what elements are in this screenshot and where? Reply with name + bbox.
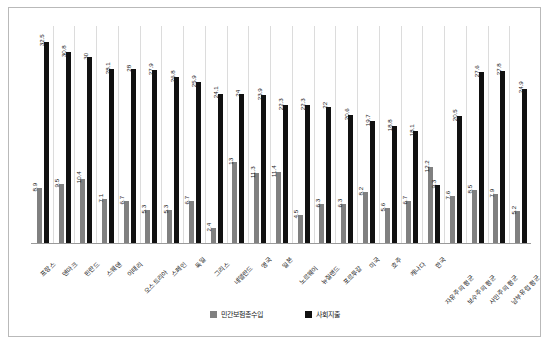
- bar-private[interactable]: 13: [232, 162, 237, 243]
- bar-private[interactable]: 5.6: [385, 208, 390, 243]
- bar-value-wrap: 6.7: [119, 196, 126, 205]
- bar-social[interactable]: 24.1: [218, 94, 223, 243]
- bar-private[interactable]: 7.1: [102, 199, 107, 243]
- bar-private[interactable]: 6.7: [124, 201, 129, 243]
- bar-group: 6.728: [123, 26, 136, 243]
- bar-group: 8.527.6: [471, 26, 484, 243]
- bar-private[interactable]: 8.5: [472, 190, 477, 243]
- x-axis-label: 호주: [390, 256, 403, 269]
- bar-value-label: 23.9: [256, 88, 263, 100]
- bar-value-wrap: 11.3: [249, 166, 256, 178]
- chart-frame: 8.932.59.530.810.4307.128.16.7285.327.95…: [8, 7, 541, 337]
- bar-social[interactable]: 28: [131, 69, 136, 243]
- grid-line: [270, 26, 271, 244]
- bar-private[interactable]: 6.3: [319, 204, 324, 243]
- bar-social[interactable]: 20.6: [348, 115, 353, 243]
- bar-value-wrap: 28: [126, 65, 133, 72]
- bar-social[interactable]: 30: [87, 57, 92, 243]
- bar-private[interactable]: 10.4: [80, 179, 85, 243]
- bar-value-label: 5.3: [163, 205, 170, 214]
- bar-value-label: 22: [322, 102, 329, 109]
- bar-social[interactable]: 32.5: [44, 42, 49, 244]
- bar-group: 7.620.5: [449, 26, 462, 243]
- bar-value-wrap: 5.6: [380, 203, 387, 212]
- bar-social[interactable]: 24: [239, 94, 244, 243]
- grid-line: [401, 26, 402, 244]
- bar-group: 6.322: [318, 26, 331, 243]
- bar-value-wrap: 24.9: [517, 82, 524, 94]
- bar-private[interactable]: 5.3: [167, 210, 172, 243]
- bar-value-wrap: 24.1: [213, 87, 220, 99]
- bar-value-label: 30: [83, 53, 90, 60]
- bar-group: 6.725.9: [188, 26, 201, 243]
- grid-line: [183, 26, 184, 244]
- bar-private[interactable]: 7.6: [450, 196, 455, 243]
- bar-group: 6.320.6: [340, 26, 353, 243]
- bar-private[interactable]: 5.2: [515, 211, 520, 243]
- bar-value-wrap: 8.9: [32, 183, 39, 192]
- bar-value-wrap: 6.3: [315, 199, 322, 208]
- bar-value-label: 28: [126, 65, 133, 72]
- bar-value-wrap: 18.1: [409, 124, 416, 136]
- grid-line: [96, 26, 97, 244]
- bar-social[interactable]: 18.1: [413, 131, 418, 243]
- bar-private[interactable]: 6.7: [406, 201, 411, 243]
- bar-private[interactable]: 5.3: [145, 210, 150, 243]
- legend-item-private[interactable]: 민간보험총수입: [210, 311, 263, 318]
- bar-private[interactable]: 8.9: [37, 188, 42, 243]
- bar-social[interactable]: 22.3: [283, 105, 288, 243]
- bar-private[interactable]: 11.3: [254, 173, 259, 243]
- bar-social[interactable]: 9.3: [435, 185, 440, 243]
- bar-social[interactable]: 27.8: [500, 71, 505, 243]
- x-axis-label: 스웨덴: [105, 261, 122, 278]
- bar-value-wrap: 20.6: [343, 108, 350, 120]
- bar-group: 1324: [231, 26, 244, 243]
- bar-social[interactable]: 20.5: [457, 116, 462, 243]
- bar-private[interactable]: 2.4: [211, 228, 216, 243]
- bar-private[interactable]: 6.3: [341, 204, 346, 243]
- bar-social[interactable]: 24.9: [522, 89, 527, 243]
- bar-value-wrap: 11.4: [271, 166, 278, 178]
- bar-social[interactable]: 22.3: [305, 105, 310, 243]
- bar-value-label: 12.2: [423, 160, 430, 172]
- bar-social[interactable]: 18.8: [392, 126, 397, 243]
- bar-private[interactable]: 6.7: [189, 201, 194, 243]
- bar-social[interactable]: 26.8: [174, 77, 179, 243]
- bar-social[interactable]: 23.9: [261, 95, 266, 243]
- bar-social[interactable]: 19.7: [370, 121, 375, 243]
- bar-social[interactable]: 27.9: [152, 70, 157, 243]
- bar-social[interactable]: 28.1: [109, 69, 114, 243]
- bar-private[interactable]: 4.5: [298, 215, 303, 243]
- bar-social[interactable]: 22: [326, 107, 331, 243]
- bar-social[interactable]: 30.8: [66, 52, 71, 243]
- bar-value-label: 6.7: [184, 196, 191, 205]
- bar-value-wrap: 26.8: [170, 70, 177, 82]
- bar-value-label: 27.8: [496, 64, 503, 76]
- x-axis-label: 뉴질랜드: [320, 265, 342, 287]
- bar-value-label: 2.4: [206, 223, 213, 232]
- bar-value-label: 6.7: [119, 196, 126, 205]
- bar-private[interactable]: 11.4: [276, 172, 281, 243]
- bar-value-wrap: 32.5: [39, 34, 46, 46]
- x-axis-label: 덴마크: [62, 261, 79, 278]
- bar-social[interactable]: 27.6: [479, 72, 484, 243]
- bar-social[interactable]: 25.9: [196, 82, 201, 243]
- grid-line: [227, 26, 228, 244]
- plot-area: 8.932.59.530.810.4307.128.16.7285.327.95…: [31, 26, 531, 244]
- x-axis-label: 미국: [368, 256, 381, 269]
- x-axis-label: 노르웨이: [298, 265, 320, 287]
- bar-value-label: 13: [228, 158, 235, 165]
- bar-value-label: 20.6: [343, 108, 350, 120]
- bar-value-wrap: 18.8: [387, 119, 394, 131]
- grid-line: [53, 26, 54, 244]
- bar-value-wrap: 7.6: [445, 191, 452, 200]
- legend-item-social[interactable]: 사회지출: [305, 311, 340, 318]
- bar-value-wrap: 22: [322, 102, 329, 109]
- bar-private[interactable]: 9.5: [59, 184, 64, 243]
- bar-value-label: 24.9: [517, 82, 524, 94]
- bar-value-wrap: 27.9: [148, 63, 155, 75]
- bar-value-label: 30.8: [61, 45, 68, 57]
- bar-value-label: 8.9: [32, 183, 39, 192]
- bar-private[interactable]: 7.9: [493, 194, 498, 243]
- bar-private[interactable]: 8.2: [363, 192, 368, 243]
